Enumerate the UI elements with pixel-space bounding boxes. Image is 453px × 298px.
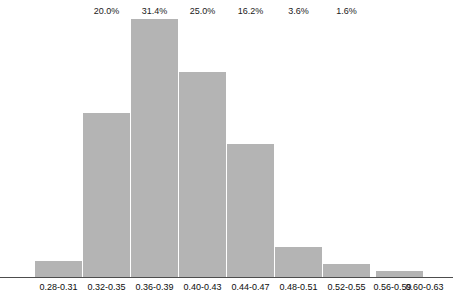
bar-value-label-6: 1.6%: [323, 6, 370, 264]
bar-0[interactable]: [35, 261, 82, 277]
bar-slot-8[interactable]: 0.2%: [376, 0, 423, 277]
bar-3[interactable]: [179, 72, 226, 277]
bar-slot-0[interactable]: 2.0%: [35, 0, 82, 277]
bar-slot-6[interactable]: 1.6%: [323, 0, 370, 277]
bar-value-label-2: 31.4%: [131, 6, 178, 19]
bar-slot-2[interactable]: 31.4%: [131, 0, 178, 277]
x-axis-line: [0, 277, 453, 278]
bar-1[interactable]: [83, 113, 130, 277]
bar-2[interactable]: [131, 19, 178, 277]
bar-value-label-1: 20.0%: [83, 6, 130, 113]
bar-slot-5[interactable]: 3.6%: [275, 0, 322, 277]
bar-4[interactable]: [227, 144, 274, 277]
x-tick-label-8: 0.60-0.63: [396, 280, 453, 294]
bar-5[interactable]: [275, 247, 322, 277]
x-axis-tick-labels: 0.28-0.31 0.32-0.35 0.36-0.39 0.40-0.43 …: [0, 280, 453, 298]
bar-value-label-4: 16.2%: [227, 6, 274, 144]
bar-6[interactable]: [323, 264, 370, 277]
bar-value-label-3: 25.0%: [179, 6, 226, 72]
bar-slot-4[interactable]: 16.2%: [227, 0, 274, 277]
bar-value-label-5: 3.6%: [275, 6, 322, 247]
bar-slot-3[interactable]: 25.0%: [179, 0, 226, 277]
histogram-chart: 2.0% 20.0% 31.4% 25.0% 16.2% 3.6% 1.6%: [0, 0, 453, 298]
plot-area: 2.0% 20.0% 31.4% 25.0% 16.2% 3.6% 1.6%: [0, 0, 453, 277]
bar-slot-1[interactable]: 20.0%: [83, 0, 130, 277]
